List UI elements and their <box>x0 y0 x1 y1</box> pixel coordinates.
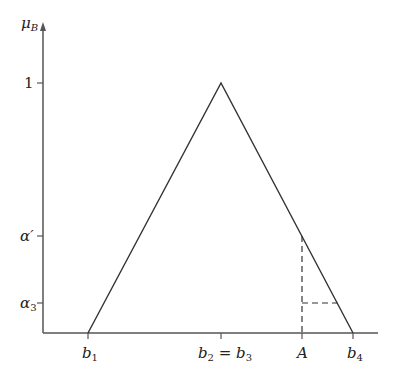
y-tick-alpha-prime: α′ <box>20 227 34 245</box>
triangle-membership <box>88 83 353 333</box>
y-axis-arrow-icon <box>40 22 46 31</box>
x-tick-b1: b1 <box>82 344 98 363</box>
y-axis-label: μB <box>21 14 38 33</box>
membership-function-diagram: μB 1 α′ α3 b1 b2 = b3 A b4 <box>0 0 408 382</box>
y-tick-1: 1 <box>24 74 34 92</box>
x-tick-b2-b3: b2 = b3 <box>198 344 252 363</box>
x-tick-A: A <box>295 344 308 362</box>
y-tick-alpha3: α3 <box>20 294 37 313</box>
x-tick-b4: b4 <box>347 344 363 363</box>
